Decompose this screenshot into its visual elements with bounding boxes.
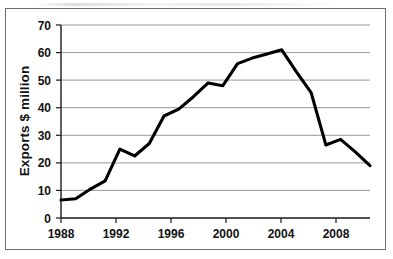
plot-area-wrapper: 70 60 50 40 30 20 10 0 1988 1992 1996 20…	[0, 0, 393, 259]
y-tick-label-70: 70	[38, 19, 52, 33]
gridlines	[61, 25, 370, 190]
y-tick-label-10: 10	[38, 184, 52, 198]
y-tick-label-40: 40	[38, 101, 52, 115]
y-axis	[56, 25, 61, 218]
x-tick-label-2004: 2004	[268, 227, 295, 241]
y-tick-label-60: 60	[38, 46, 52, 60]
x-axis	[61, 218, 370, 223]
y-axis-title: Exports $ million	[17, 66, 32, 176]
x-tick-label-2000: 2000	[213, 227, 240, 241]
x-tick-label-1992: 1992	[103, 227, 130, 241]
y-tick-label-50: 50	[38, 74, 52, 88]
x-tick-label-1988: 1988	[48, 227, 75, 241]
y-tick-label-20: 20	[38, 156, 52, 170]
chart-screenshot: 70 60 50 40 30 20 10 0 1988 1992 1996 20…	[0, 0, 393, 259]
y-tick-labels: 70 60 50 40 30 20 10 0	[38, 19, 52, 226]
line-chart: 70 60 50 40 30 20 10 0 1988 1992 1996 20…	[0, 0, 393, 259]
x-tick-label-1996: 1996	[158, 227, 185, 241]
data-series-line	[61, 50, 370, 200]
x-tick-label-2008: 2008	[323, 227, 350, 241]
x-tick-labels: 1988 1992 1996 2000 2004 2008	[48, 227, 350, 241]
y-tick-label-0: 0	[44, 212, 51, 226]
y-tick-label-30: 30	[38, 129, 52, 143]
